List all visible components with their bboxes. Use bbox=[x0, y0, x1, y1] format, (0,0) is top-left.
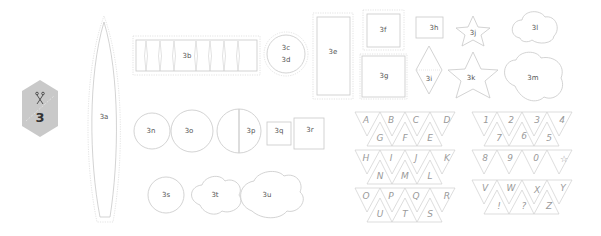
piece-label: 3b bbox=[183, 52, 192, 60]
piece-3i: 3i bbox=[416, 46, 442, 94]
piece-label: 3k bbox=[467, 74, 476, 82]
svg-text:!: ! bbox=[497, 201, 501, 211]
piece-3f: 3f bbox=[363, 10, 404, 50]
svg-text:S: S bbox=[427, 209, 433, 219]
piece-label: 3f bbox=[380, 26, 387, 34]
svg-text:6: 6 bbox=[521, 131, 527, 141]
piece-3j: 3j bbox=[456, 16, 490, 46]
piece-3q: 3q bbox=[267, 122, 291, 145]
piece-label: 3i bbox=[426, 75, 432, 83]
svg-text:O: O bbox=[362, 191, 369, 201]
piece-label: 3m bbox=[527, 74, 538, 82]
bunting-right: 1 2 3 4 7 6 5 8 9 0 ☆ V W X Y ! ? Z bbox=[472, 112, 572, 214]
piece-label: 3r bbox=[306, 126, 313, 134]
piece-3b: 3b bbox=[133, 36, 260, 75]
piece-3a: 3a bbox=[88, 16, 120, 222]
svg-text:?: ? bbox=[522, 201, 527, 211]
svg-text:7: 7 bbox=[496, 133, 502, 143]
svg-text:1: 1 bbox=[483, 115, 489, 125]
star-icon: ☆ bbox=[560, 154, 568, 164]
piece-3m: 3m bbox=[505, 52, 563, 101]
piece-3n: 3n bbox=[134, 113, 170, 149]
piece-3e: 3e bbox=[313, 13, 353, 99]
piece-label: 3h bbox=[430, 24, 439, 32]
bunting-left: A B C D G F E H I J K N M L O P Q R U T bbox=[355, 112, 455, 222]
svg-text:9: 9 bbox=[507, 153, 513, 163]
piece-label: 3n bbox=[147, 127, 156, 135]
svg-text:V: V bbox=[482, 183, 489, 193]
svg-text:3: 3 bbox=[534, 115, 540, 125]
svg-text:4: 4 bbox=[559, 115, 565, 125]
piece-3c-3d: 3c 3d bbox=[264, 32, 308, 76]
piece-label: 3d bbox=[282, 56, 291, 64]
pattern-sheet: 3 3a 3b 3c 3d 3e bbox=[0, 0, 601, 236]
svg-text:8: 8 bbox=[482, 153, 488, 163]
svg-text:I: I bbox=[390, 153, 393, 163]
piece-label: 3g bbox=[380, 72, 389, 80]
piece-3s: 3s bbox=[148, 177, 184, 213]
svg-text:U: U bbox=[377, 209, 384, 219]
piece-label: 3q bbox=[275, 127, 284, 135]
piece-label: 3u bbox=[263, 191, 272, 199]
piece-3o: 3o bbox=[171, 110, 213, 152]
svg-text:X: X bbox=[533, 185, 541, 195]
piece-3h: 3h bbox=[416, 17, 443, 38]
section-badge: 3 bbox=[22, 80, 58, 137]
piece-3t: 3t bbox=[192, 176, 241, 214]
piece-label: 3s bbox=[162, 191, 170, 199]
piece-3r: 3r bbox=[294, 118, 324, 149]
svg-text:M: M bbox=[401, 171, 409, 181]
svg-text:E: E bbox=[427, 133, 433, 143]
piece-label: 3o bbox=[185, 127, 194, 135]
svg-text:0: 0 bbox=[533, 153, 539, 163]
piece-3l: 3l bbox=[512, 12, 557, 43]
svg-text:F: F bbox=[402, 133, 408, 143]
piece-label: 3e bbox=[329, 48, 338, 56]
svg-text:P: P bbox=[388, 191, 394, 201]
piece-3k: 3k bbox=[448, 52, 498, 98]
svg-text:Q: Q bbox=[412, 191, 419, 201]
piece-3g: 3g bbox=[360, 54, 407, 99]
svg-text:L: L bbox=[427, 171, 432, 181]
svg-text:H: H bbox=[363, 153, 370, 163]
svg-text:A: A bbox=[362, 115, 369, 125]
svg-text:W: W bbox=[507, 183, 517, 193]
piece-3u: 3u bbox=[241, 171, 304, 217]
svg-text:D: D bbox=[444, 115, 451, 125]
svg-text:B: B bbox=[388, 115, 394, 125]
piece-label: 3j bbox=[470, 29, 476, 37]
section-number: 3 bbox=[35, 110, 44, 125]
piece-label: 3l bbox=[532, 24, 538, 32]
svg-text:C: C bbox=[413, 115, 420, 125]
svg-text:Z: Z bbox=[545, 201, 553, 211]
svg-text:R: R bbox=[444, 191, 450, 201]
svg-text:G: G bbox=[377, 133, 384, 143]
piece-label: 3a bbox=[100, 113, 109, 121]
piece-3p: 3p bbox=[217, 109, 261, 153]
piece-label: 3c bbox=[282, 44, 290, 52]
svg-text:2: 2 bbox=[508, 115, 514, 125]
svg-text:N: N bbox=[377, 171, 384, 181]
svg-text:5: 5 bbox=[546, 133, 552, 143]
piece-label: 3t bbox=[211, 191, 218, 199]
piece-label: 3p bbox=[247, 127, 256, 135]
